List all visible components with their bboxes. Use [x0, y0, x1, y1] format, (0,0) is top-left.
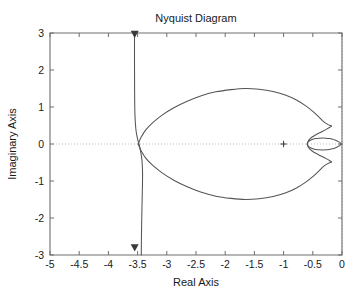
x-tick-label: -5 — [45, 258, 54, 270]
x-tick-label: -1.5 — [245, 258, 263, 270]
plot-annotations — [131, 31, 287, 252]
nyquist-diagram-figure: -5-4.5-4-3.5-3-2.5-2-1.5-1-0.50 -3-2-101… — [0, 0, 360, 292]
critical-point-marker — [280, 141, 286, 147]
plot-frame — [50, 33, 342, 255]
curve-pinch-lower — [307, 144, 331, 162]
curve-inner-loop-lower — [307, 144, 341, 150]
curve-main-lobe-lower — [138, 144, 331, 200]
x-tick-label: -1 — [279, 258, 288, 270]
y-axis-tick-labels: -3-2-10123 — [35, 27, 45, 261]
x-tick-label: -3.5 — [129, 258, 147, 270]
curve-pinch-upper — [307, 126, 331, 144]
gridlines-group — [50, 33, 342, 255]
x-tick-label: -3 — [162, 258, 171, 270]
direction-arrow-bottom — [131, 244, 139, 251]
axes-frame — [50, 33, 342, 255]
chart-title: Nyquist Diagram — [155, 12, 236, 24]
x-tick-label: -4 — [104, 258, 113, 270]
y-tick-label: 3 — [38, 27, 44, 39]
curve-main-lobe-upper — [138, 88, 331, 144]
y-tick-label: 1 — [38, 101, 44, 113]
y-axis-ticks — [50, 33, 342, 255]
x-tick-label: -2.5 — [187, 258, 205, 270]
y-axis-label: Imaginary Axis — [6, 108, 18, 180]
nyquist-plot-svg: -5-4.5-4-3.5-3-2.5-2-1.5-1-0.50 -3-2-101… — [0, 0, 360, 292]
y-tick-label: 2 — [38, 64, 44, 76]
nyquist-curves — [135, 33, 342, 255]
y-tick-label: 0 — [38, 138, 44, 150]
x-tick-label: -0.5 — [304, 258, 322, 270]
x-tick-label: -4.5 — [70, 258, 88, 270]
x-axis-ticks — [50, 33, 342, 255]
x-tick-label: -2 — [221, 258, 230, 270]
x-axis-tick-labels: -5-4.5-4-3.5-3-2.5-2-1.5-1-0.50 — [45, 258, 345, 270]
x-axis-label: Real Axis — [173, 276, 219, 288]
y-tick-label: -1 — [35, 175, 44, 187]
y-tick-label: -3 — [35, 249, 44, 261]
curve-inner-loop-upper — [307, 138, 341, 144]
x-tick-label: 0 — [339, 258, 345, 270]
y-tick-label: -2 — [35, 212, 44, 224]
